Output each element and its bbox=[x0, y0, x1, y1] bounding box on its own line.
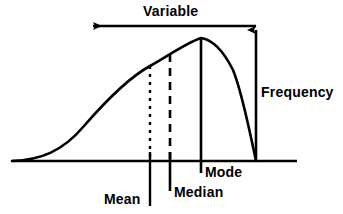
frequency-axis-label: Frequency bbox=[261, 84, 334, 100]
diagram-canvas bbox=[0, 0, 343, 214]
mode-label: Mode bbox=[205, 164, 242, 180]
median-label: Median bbox=[174, 184, 223, 200]
distribution-diagram: Variable Frequency Mode Median Mean bbox=[0, 0, 343, 214]
variable-axis-label: Variable bbox=[143, 3, 198, 19]
distribution-curve bbox=[12, 38, 256, 161]
mean-label: Mean bbox=[104, 191, 141, 207]
